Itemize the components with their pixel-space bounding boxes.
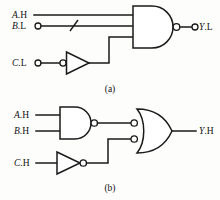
input-label-b-panel-c-h: C.H [14,158,30,168]
inverter-gate[interactable] [67,52,90,74]
input-terminal-c-l[interactable] [35,60,41,66]
nand-gate[interactable] [133,6,173,48]
or-input-bubble-1-icon [131,120,137,126]
input-label-b-l: B.L [12,21,26,31]
inverter-output-bubble-icon [80,160,86,166]
or-input-bubble-2-icon [131,136,137,142]
output-label-y-h-suffix: .H [204,126,213,136]
input-terminal-b-l[interactable] [35,23,41,29]
panel-a-caption: (a) [105,84,116,95]
or-gate[interactable] [137,109,172,153]
output-label-y-l: Y.L [199,22,213,32]
panel-b-circuit: A.H B.H C.H Y.H (b) [0,100,220,200]
inverter-gate[interactable] [57,152,80,174]
input-label-a-h: A.H [11,10,27,20]
output-terminal-y-l[interactable] [192,24,198,30]
inverter-input-bubble-icon [60,60,66,66]
input-label-b-panel-b-h-suffix: .H [20,126,29,136]
wire-inverter-out-to-nand [89,37,133,63]
wire-inverter-to-or [87,139,132,163]
nand-output-bubble-icon [91,120,97,126]
output-label-y-l-suffix: .L [204,22,212,32]
input-label-c-l-suffix: .L [18,58,26,68]
nand-gate[interactable] [60,107,91,139]
input-label-c-l: C.L [12,58,27,68]
panel-a-circuit: A.H B.L C.L [0,0,220,100]
input-label-b-panel-a-h-suffix: .H [20,110,29,120]
input-label-b-panel-b-h: B.H [14,126,29,136]
input-label-a-h-suffix: .H [18,10,27,20]
input-label-b-panel-a-h: A.H [13,110,29,120]
output-label-y-h: Y.H [199,126,214,136]
panel-b-caption: (b) [104,183,115,194]
input-label-b-panel-c-h-suffix: .H [20,158,29,168]
input-label-b-l-suffix: .L [18,21,26,31]
nand-output-bubble-icon [173,24,180,31]
logic-diagram-figure: A.H B.L C.L [0,0,220,200]
